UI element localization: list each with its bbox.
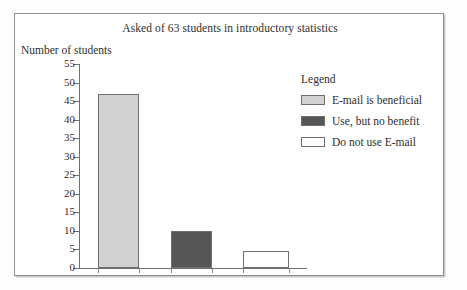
bar-3 <box>243 251 289 268</box>
y-tick-label: 45 <box>64 94 75 106</box>
bar-1 <box>98 94 139 268</box>
plot-area: 5550454035302520151050 <box>79 64 307 269</box>
legend-swatch-beneficial <box>301 95 325 105</box>
x-tick-mark <box>289 269 290 273</box>
y-tick-label: 20 <box>64 187 75 199</box>
x-tick-mark <box>98 269 99 273</box>
chart-title: Asked of 63 students in introductory sta… <box>15 22 445 34</box>
legend-swatch-do-not-use <box>301 137 325 147</box>
figure-container: Asked of 63 students in introductory sta… <box>0 0 467 290</box>
legend-label-3: Do not use E-mail <box>332 136 416 148</box>
y-tick-label: 50 <box>64 76 75 88</box>
y-tick-label: 30 <box>64 150 75 162</box>
y-axis-line <box>79 64 80 268</box>
legend-rows: E-mail is beneficialUse, but no benefitD… <box>301 91 441 151</box>
legend-item-2: Use, but no benefit <box>301 112 441 130</box>
legend-label-2: Use, but no benefit <box>332 115 420 127</box>
x-tick-mark <box>171 269 172 273</box>
x-tick-mark <box>139 269 140 273</box>
y-tick-label: 25 <box>64 168 75 180</box>
y-tick-label: 40 <box>64 113 75 125</box>
x-tick-mark <box>243 269 244 273</box>
y-tick-label: 0 <box>70 261 76 273</box>
y-axis-title: Number of students <box>21 44 112 56</box>
y-tick-label: 10 <box>64 224 75 236</box>
legend-label-1: E-mail is beneficial <box>332 94 422 106</box>
legend: Legend E-mail is beneficialUse, but no b… <box>301 73 441 154</box>
legend-title: Legend <box>301 73 441 85</box>
y-tick-label: 35 <box>64 131 75 143</box>
y-tick-label: 5 <box>70 242 76 254</box>
chart-frame: Asked of 63 students in introductory sta… <box>14 13 444 276</box>
x-axis-line <box>79 268 307 269</box>
y-tick-label: 15 <box>64 205 75 217</box>
x-tick-mark <box>212 269 213 273</box>
legend-item-3: Do not use E-mail <box>301 133 441 151</box>
legend-swatch-no-benefit <box>301 116 325 126</box>
bar-2 <box>171 231 212 268</box>
legend-item-1: E-mail is beneficial <box>301 91 441 109</box>
y-tick-label: 55 <box>64 57 75 69</box>
